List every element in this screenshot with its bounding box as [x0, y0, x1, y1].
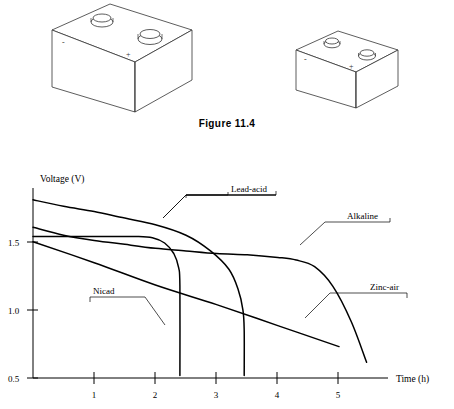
- large-battery-terminal-positive: [138, 30, 162, 45]
- y-tick-label-1-0: 1.0: [8, 306, 20, 316]
- large-battery-body: [52, 4, 192, 112]
- small-battery-terminal-positive: [359, 50, 376, 60]
- leader-lead-acid-elbow: [163, 195, 276, 218]
- x-tick-label-1: 1: [92, 390, 97, 400]
- series-curves: [33, 200, 367, 376]
- curve-lead-acid: [33, 200, 244, 376]
- small-battery-body: [296, 31, 398, 108]
- x-tick-label-2: 2: [153, 390, 158, 400]
- leader-alkaline: [300, 222, 390, 245]
- y-tick-label-0-5: 0.5: [8, 374, 20, 384]
- x-tick-label-4: 4: [275, 390, 280, 400]
- figure-caption: Figure 11.4: [0, 118, 454, 129]
- series-label-alkaline: Alkaline: [347, 211, 378, 221]
- large-battery-positive-label: +: [126, 50, 131, 59]
- large-battery-negative-label: -: [62, 38, 65, 47]
- large-battery-terminal-negative: [91, 14, 113, 27]
- large-battery-illustration: - +: [40, 2, 200, 117]
- y-tick-label-1-5: 1.5: [8, 238, 20, 248]
- x-axis-title: Time (h): [396, 374, 429, 385]
- small-battery-negative-label: -: [304, 55, 307, 64]
- curve-zinc-air: [33, 242, 339, 347]
- figure-panel: - + - + Figure 1: [0, 0, 454, 409]
- series-label-nicad: Nicad: [93, 286, 115, 296]
- series-label-lead-acid: Lead-acid: [231, 184, 267, 194]
- x-tick-label-3: 3: [214, 390, 219, 400]
- x-tick-label-5: 5: [336, 390, 341, 400]
- leader-nicad: [90, 297, 165, 325]
- curve-nicad: [33, 236, 180, 375]
- leader-zinc-air: [305, 293, 407, 318]
- y-axis-title: Voltage (V): [40, 174, 84, 185]
- curve-alkaline: [33, 227, 367, 362]
- small-battery-illustration: - +: [288, 28, 408, 116]
- series-label-zinc-air: Zinc-air: [370, 282, 399, 292]
- small-battery-terminal-negative: [324, 38, 340, 48]
- chart-axes: [33, 188, 388, 378]
- discharge-curves-chart: 1.5 1.0 0.5 1 2 3 4 5 Voltage (V) Time (…: [0, 150, 454, 409]
- small-battery-positive-label: +: [349, 62, 354, 71]
